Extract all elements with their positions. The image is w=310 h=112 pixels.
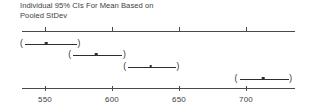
interval-lower-bound-marker: (	[234, 74, 237, 83]
confidence-interval: ()	[0, 40, 310, 49]
axis-tick-bottom	[246, 86, 247, 91]
interval-mean-marker	[262, 77, 265, 80]
interval-upper-bound-marker: )	[289, 74, 292, 83]
axis-tick-bottom	[112, 86, 113, 91]
axis-tick-bottom	[179, 86, 180, 91]
interval-mean-marker	[95, 53, 98, 56]
chart-title-line-1: Individual 95% CIs For Mean Based on	[20, 1, 154, 11]
interval-range-bar	[128, 67, 176, 68]
interval-upper-bound-marker: )	[123, 50, 126, 59]
confidence-interval: ()	[0, 63, 310, 72]
interval-range-bar	[73, 55, 122, 56]
confidence-interval: ()	[0, 75, 310, 84]
interval-upper-bound-marker: )	[77, 39, 80, 48]
interval-range-bar	[25, 44, 77, 45]
interval-lower-bound-marker: (	[68, 50, 71, 59]
interval-lower-bound-marker: (	[123, 62, 126, 71]
axis-tick-label: 600	[105, 95, 119, 104]
axis-tick-label: 650	[172, 95, 186, 104]
axis-line-top	[22, 31, 295, 32]
interval-mean-marker	[150, 65, 153, 68]
interval-lower-bound-marker: (	[20, 39, 23, 48]
interval-upper-bound-marker: )	[177, 62, 180, 71]
ci-plot: Individual 95% CIs For Mean Based on Poo…	[0, 0, 310, 112]
axis-tick-top	[45, 27, 46, 32]
axis-tick-top	[246, 27, 247, 32]
confidence-interval: ()	[0, 51, 310, 60]
axis-tick-top	[179, 27, 180, 32]
axis-tick-top	[112, 27, 113, 32]
chart-title-line-2: Pooled StDev	[20, 11, 67, 21]
interval-mean-marker	[45, 42, 48, 45]
axis-tick-bottom	[45, 86, 46, 91]
axis-line-bottom	[22, 88, 295, 89]
axis-tick-label: 700	[239, 95, 253, 104]
axis-tick-label: 550	[38, 95, 52, 104]
